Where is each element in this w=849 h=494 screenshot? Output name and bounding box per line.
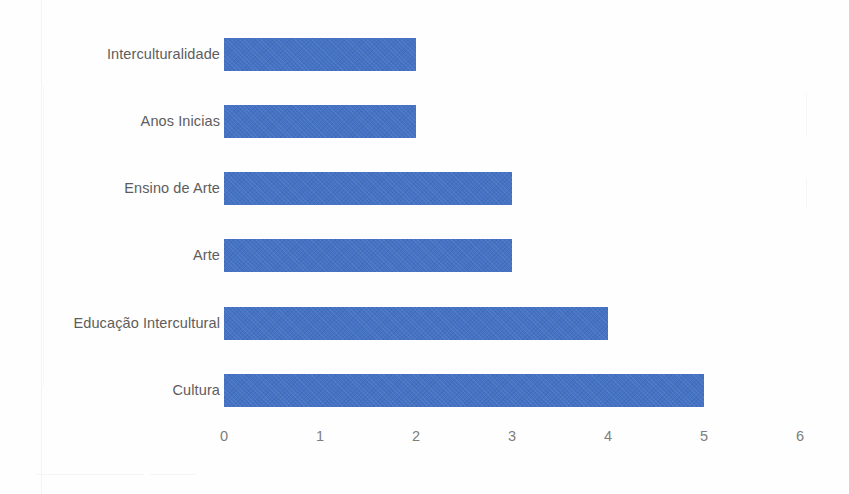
x-tick-label: 1 xyxy=(300,428,340,444)
bar-interculturalidade xyxy=(224,38,416,71)
category-label-ensino-de-arte: Ensino de Arte xyxy=(124,170,220,207)
x-tick-label: 5 xyxy=(684,428,724,444)
x-tick-label: 3 xyxy=(492,428,532,444)
bar-anos-inicias xyxy=(224,105,416,138)
bar-cultura xyxy=(224,374,704,407)
category-label-arte: Arte xyxy=(193,237,220,274)
category-label-anos-inicias: Anos Inicias xyxy=(141,103,220,140)
x-tick-label: 2 xyxy=(396,428,436,444)
bar-arte xyxy=(224,239,512,272)
category-label-interculturalidade: Interculturalidade xyxy=(107,36,220,73)
bar-chart-figure: Interculturalidade Anos Inicias Ensino d… xyxy=(0,0,849,494)
bar-row: Cultura xyxy=(0,372,849,409)
x-tick-label: 4 xyxy=(588,428,628,444)
bar-row: Anos Inicias xyxy=(0,103,849,140)
bar-row: Educação Intercultural xyxy=(0,305,849,342)
bar-ensino-de-arte xyxy=(224,172,512,205)
bar-educacao-intercultural xyxy=(224,307,608,340)
x-axis: 0 1 2 3 4 5 6 xyxy=(0,428,849,458)
category-label-cultura: Cultura xyxy=(173,372,220,409)
bar-row: Ensino de Arte xyxy=(0,170,849,207)
bar-row: Arte xyxy=(0,237,849,274)
plot-area: Interculturalidade Anos Inicias Ensino d… xyxy=(0,0,849,494)
bar-row: Interculturalidade xyxy=(0,36,849,73)
x-tick-label: 0 xyxy=(204,428,244,444)
x-tick-label: 6 xyxy=(780,428,820,444)
category-label-educacao-intercultural: Educação Intercultural xyxy=(74,305,220,342)
